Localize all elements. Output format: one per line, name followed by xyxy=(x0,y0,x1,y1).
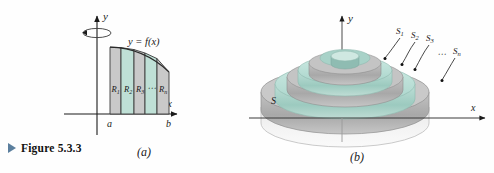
panel-a-y-axis-label: y xyxy=(102,10,108,22)
panel-a-sublabel: (a) xyxy=(137,145,151,160)
panel-b-x-axis-label: x xyxy=(470,102,476,113)
tick-label-a: a xyxy=(107,118,112,129)
solid-label-s: S xyxy=(271,95,276,106)
curve-label: y = f(x) xyxy=(127,36,160,48)
figure-container: y x xyxy=(0,0,494,173)
central-hole-top xyxy=(331,51,359,61)
caption-text: Figure 5.3.3 xyxy=(21,142,82,154)
panel-b-ring-labels: S1 S2 S3 ⋯ Sn xyxy=(396,26,461,59)
rect-label-ellipsis: ⋯ xyxy=(147,83,156,93)
ring-label-sn: Sn xyxy=(453,46,461,57)
caption-triangle-icon xyxy=(8,143,16,153)
ring-label-ellipsis: ⋯ xyxy=(437,49,446,59)
panel-a-group: y x xyxy=(64,10,177,135)
figure-caption: Figure 5.3.3 xyxy=(8,142,82,154)
panel-b-sublabel: (b) xyxy=(350,150,364,165)
rect-r3 xyxy=(134,50,145,114)
ring-label-s2: S2 xyxy=(411,30,420,41)
tick-label-b: b xyxy=(166,118,171,129)
panel-b-group: y x xyxy=(249,12,485,147)
ring-label-s1: S1 xyxy=(396,26,404,37)
panel-a-rectangles xyxy=(110,47,169,114)
panel-b-y-axis-label: y xyxy=(347,12,353,24)
rect-r1 xyxy=(110,47,121,114)
rect-r2 xyxy=(121,48,134,114)
ring-label-s3: S3 xyxy=(426,33,435,44)
